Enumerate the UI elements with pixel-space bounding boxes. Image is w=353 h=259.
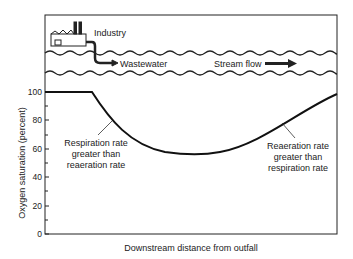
x-axis-title: Downstream distance from outfall: [124, 243, 258, 253]
right-annotation-leader: [282, 123, 295, 138]
svg-text:greater than: greater than: [274, 152, 323, 162]
wastewater-label: Wastewater: [120, 59, 167, 69]
stream-bank-top: [45, 51, 337, 55]
y-axis: [45, 92, 49, 234]
svg-text:greater than: greater than: [72, 149, 121, 159]
svg-text:reaeration rate: reaeration rate: [67, 160, 126, 170]
svg-text:20: 20: [33, 201, 43, 211]
stream-bank-bottom: [45, 71, 337, 75]
y-axis-title: Oxygen saturation (percent): [17, 107, 27, 219]
left-annotation: Respiration rate greater than reaeration…: [64, 138, 128, 170]
plot-frame: [45, 15, 337, 234]
svg-text:100: 100: [28, 87, 42, 97]
svg-text:0: 0: [37, 229, 42, 239]
svg-text:80: 80: [33, 115, 43, 125]
right-annotation: Reaeration rate greater than respiration…: [267, 141, 329, 173]
stream-flow-arrow-icon: [265, 59, 297, 68]
oxygen-sag-diagram: Industry Wastewater Stream flow 0 20 40 …: [0, 0, 353, 259]
stream-flow-label: Stream flow: [214, 59, 262, 69]
svg-text:respiration rate: respiration rate: [268, 163, 328, 173]
svg-text:60: 60: [33, 144, 43, 154]
left-annotation-leader: [98, 121, 112, 135]
y-tick-labels: 0 20 40 60 80 100: [28, 87, 42, 239]
svg-text:40: 40: [33, 172, 43, 182]
svg-text:Respiration rate: Respiration rate: [64, 138, 128, 148]
industry-label: Industry: [94, 28, 127, 38]
svg-text:Reaeration rate: Reaeration rate: [267, 141, 329, 151]
